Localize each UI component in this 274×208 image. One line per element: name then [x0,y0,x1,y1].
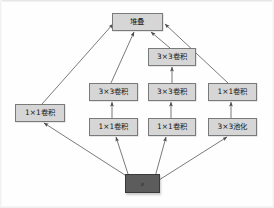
node-conv1x1-f[interactable]: 1×1卷积 [89,118,138,136]
node-stack[interactable]: 堆叠 [112,13,163,31]
node-label-conv1x1-g: 1×1卷积 [157,123,187,130]
edge-input-x-to-pool3x3 [159,137,227,180]
diagram-canvas: 堆叠3×3卷积3×3卷积3×3卷积1×1卷积1×1卷积1×1卷积3×3池化1×1… [0,0,274,208]
node-conv1x1-g[interactable]: 1×1卷积 [148,118,196,136]
node-conv1x1-e[interactable]: 1×1卷积 [208,83,257,101]
node-label-input-x: x [141,181,145,187]
node-conv3x3-d[interactable]: 3×3卷积 [148,83,196,101]
node-label-conv3x3-c: 3×3卷积 [98,88,128,95]
node-label-pool3x3: 3×3池化 [217,123,247,130]
node-label-stack: 堆叠 [130,18,144,25]
node-pool3x3[interactable]: 3×3池化 [208,118,257,136]
edge-conv3x3-b-to-stack [151,32,170,48]
node-label-conv3x3-b: 3×3卷积 [157,53,187,60]
node-conv3x3-b[interactable]: 3×3卷积 [148,48,196,66]
node-conv1x1-a[interactable]: 1×1卷积 [15,104,65,122]
node-conv3x3-c[interactable]: 3×3卷积 [89,83,138,101]
node-label-conv3x3-d: 3×3卷积 [157,88,187,95]
node-label-conv1x1-a: 1×1卷积 [25,109,55,116]
edge-conv3x3-c-to-stack [111,32,134,83]
edge-input-x-to-conv1x1-g [155,137,166,177]
node-input-x[interactable]: x [125,174,160,193]
edge-group [42,24,231,180]
node-label-conv1x1-f: 1×1卷积 [98,123,128,130]
node-label-conv1x1-e: 1×1卷积 [217,88,247,95]
